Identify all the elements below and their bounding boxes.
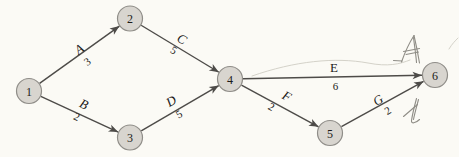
edge-A: A3 bbox=[40, 26, 120, 83]
edge-E-line bbox=[243, 75, 422, 78]
handwritten-mark-top bbox=[394, 36, 420, 64]
edge-E-duration: 6 bbox=[333, 80, 339, 92]
node-1-label: 1 bbox=[26, 85, 32, 99]
network-diagram-figure: A3B2C5D5E6F2G2123456 bbox=[0, 0, 459, 157]
edge-F-line bbox=[241, 85, 318, 127]
edge-F-duration: 2 bbox=[266, 100, 277, 113]
node-3-label: 3 bbox=[127, 131, 133, 145]
edge-G-duration: 2 bbox=[382, 104, 393, 117]
node-2-label: 2 bbox=[127, 12, 133, 26]
node-6-label: 6 bbox=[432, 69, 438, 83]
node-3: 3 bbox=[118, 125, 143, 150]
network-diagram: A3B2C5D5E6F2G2123456 bbox=[0, 0, 459, 157]
edge-D: D5 bbox=[141, 86, 219, 131]
edge-F: F2 bbox=[241, 85, 318, 127]
edge-D-duration: 5 bbox=[174, 107, 185, 120]
node-4: 4 bbox=[218, 67, 243, 92]
node-5-label: 5 bbox=[327, 127, 333, 141]
edge-A-duration: 3 bbox=[81, 55, 93, 68]
handwritten-mark-bottom bbox=[404, 99, 420, 123]
corner-smudge bbox=[449, 38, 458, 49]
node-2: 2 bbox=[118, 6, 143, 31]
edge-F-label: F bbox=[279, 87, 295, 105]
node-4-label: 4 bbox=[227, 73, 233, 87]
edge-C: C5 bbox=[141, 25, 219, 72]
node-6: 6 bbox=[423, 63, 448, 88]
node-5: 5 bbox=[318, 121, 343, 146]
node-1: 1 bbox=[17, 79, 42, 104]
edge-E-label: E bbox=[330, 60, 338, 75]
edge-D-line bbox=[141, 86, 219, 131]
edge-B: B2 bbox=[41, 96, 118, 133]
edge-E: E6 bbox=[243, 60, 422, 92]
edge-C-duration: 5 bbox=[169, 43, 180, 56]
